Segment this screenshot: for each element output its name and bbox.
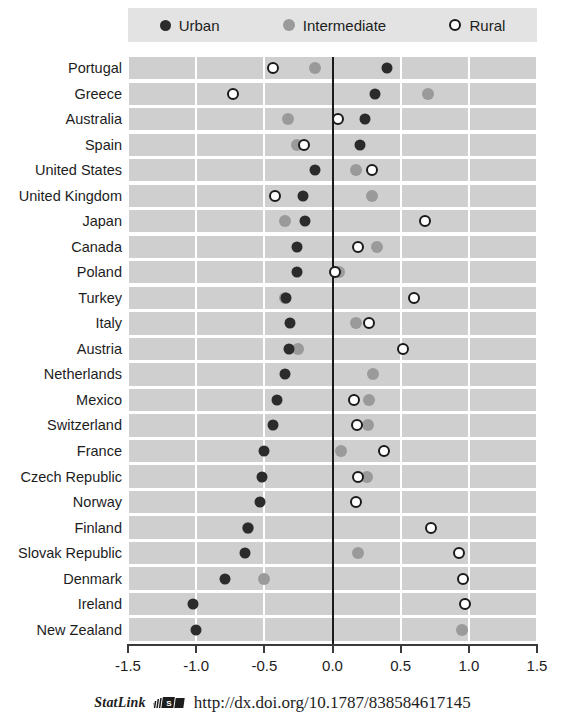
data-point-intermediate	[350, 164, 362, 176]
data-point-urban	[297, 190, 308, 201]
country-label-italy: Italy	[0, 316, 122, 331]
data-point-rural	[348, 394, 360, 406]
data-point-intermediate	[309, 62, 321, 74]
statlink-barcode-icon: S	[153, 696, 187, 710]
country-label-turkey: Turkey	[0, 291, 122, 306]
grid-line	[263, 57, 265, 644]
country-label-ireland: Ireland	[0, 597, 122, 612]
country-label-czech-republic: Czech Republic	[0, 470, 122, 485]
data-point-rural	[397, 343, 409, 355]
x-axis-tick	[263, 644, 265, 653]
data-point-urban	[256, 471, 267, 482]
filled-gray-circle-icon	[283, 19, 295, 31]
grid-line	[195, 57, 197, 644]
legend-entry-urban[interactable]: Urban	[160, 17, 220, 34]
data-point-intermediate	[367, 368, 379, 380]
data-point-urban	[292, 241, 303, 252]
data-point-rural	[351, 419, 363, 431]
data-point-urban	[300, 216, 311, 227]
data-point-urban	[285, 318, 296, 329]
country-label-australia: Australia	[0, 112, 122, 127]
x-axis-tick	[400, 644, 402, 653]
zero-reference-line	[332, 57, 334, 644]
data-point-rural	[425, 522, 437, 534]
country-label-portugal: Portugal	[0, 61, 122, 76]
data-point-urban	[360, 114, 371, 125]
data-point-intermediate	[335, 445, 347, 457]
data-point-urban	[191, 624, 202, 635]
data-point-intermediate	[363, 394, 375, 406]
data-point-urban	[309, 165, 320, 176]
data-point-urban	[271, 394, 282, 405]
country-label-norway: Norway	[0, 495, 122, 510]
data-point-urban	[219, 573, 230, 584]
filled-dark-circle-icon	[160, 20, 171, 31]
data-point-rural	[329, 266, 341, 278]
statlink-footer: StatLink S http://dx.doi.org/10.1787/838…	[0, 688, 565, 717]
data-point-rural	[459, 598, 471, 610]
data-point-urban	[188, 599, 199, 610]
statlink-url: http://dx.doi.org/10.1787/838584617145	[194, 693, 471, 713]
data-point-urban	[255, 497, 266, 508]
data-point-intermediate	[366, 190, 378, 202]
x-tick-label: 1.5	[527, 657, 548, 674]
x-axis-tick	[195, 644, 197, 653]
x-tick-label: -1.0	[183, 657, 209, 674]
data-point-rural	[332, 113, 344, 125]
open-circle-icon	[449, 19, 461, 31]
x-axis-tick	[127, 644, 129, 653]
country-label-poland: Poland	[0, 265, 122, 280]
data-point-intermediate	[352, 547, 364, 559]
country-label-united-states: United States	[0, 163, 122, 178]
grid-line	[468, 57, 470, 644]
statlink-label: StatLink	[94, 695, 145, 711]
data-point-urban	[267, 420, 278, 431]
x-tick-label: 0.5	[390, 657, 411, 674]
country-label-switzerland: Switzerland	[0, 418, 122, 433]
country-label-finland: Finland	[0, 521, 122, 536]
chart-legend: UrbanIntermediateRural	[128, 8, 537, 42]
data-point-rural	[350, 496, 362, 508]
country-label-spain: Spain	[0, 138, 122, 153]
data-point-rural	[227, 88, 239, 100]
data-point-rural	[352, 471, 364, 483]
plot-area	[128, 57, 537, 644]
country-label-united-kingdom: United Kingdom	[0, 189, 122, 204]
legend-entry-intermediate[interactable]: Intermediate	[283, 17, 386, 34]
data-point-urban	[259, 445, 270, 456]
data-point-rural	[453, 547, 465, 559]
x-axis	[128, 644, 537, 654]
x-axis-tick-labels: -1.5-1.0-0.50.00.51.01.5	[128, 657, 537, 679]
country-label-netherlands: Netherlands	[0, 367, 122, 382]
grid-line	[536, 57, 538, 644]
legend-entry-rural[interactable]: Rural	[449, 17, 505, 34]
x-tick-label: -1.5	[115, 657, 141, 674]
legend-label: Rural	[469, 17, 505, 34]
data-point-intermediate	[282, 113, 294, 125]
country-label-france: France	[0, 444, 122, 459]
country-label-denmark: Denmark	[0, 572, 122, 587]
legend-label: Intermediate	[303, 17, 386, 34]
data-point-rural	[419, 215, 431, 227]
x-axis-tick	[536, 644, 538, 653]
country-label-mexico: Mexico	[0, 393, 122, 408]
grid-line	[127, 57, 129, 644]
data-point-urban	[279, 369, 290, 380]
country-label-canada: Canada	[0, 240, 122, 255]
legend-label: Urban	[179, 17, 220, 34]
x-axis-tick	[332, 644, 334, 653]
data-point-urban	[281, 292, 292, 303]
data-point-intermediate	[350, 317, 362, 329]
country-label-new-zealand: New Zealand	[0, 623, 122, 638]
country-label-japan: Japan	[0, 214, 122, 229]
data-point-intermediate	[258, 573, 270, 585]
data-point-rural	[366, 164, 378, 176]
x-tick-label: 1.0	[458, 657, 479, 674]
data-point-rural	[352, 241, 364, 253]
country-label-greece: Greece	[0, 87, 122, 102]
data-point-urban	[292, 267, 303, 278]
data-point-rural	[267, 62, 279, 74]
svg-text:S: S	[166, 699, 172, 708]
country-label-slovak-republic: Slovak Republic	[0, 546, 122, 561]
data-point-rural	[408, 292, 420, 304]
